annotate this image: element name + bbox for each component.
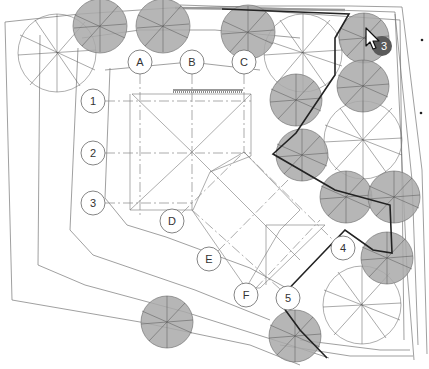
grid-bubble-1: 1 [81, 89, 105, 113]
svg-text:B: B [188, 56, 195, 68]
svg-text:C: C [240, 56, 248, 68]
svg-text:D: D [168, 215, 176, 227]
grid-bubble-3: 3 [81, 191, 105, 215]
svg-text:A: A [136, 56, 144, 68]
tree-filled-6 [337, 60, 389, 112]
tree-filled-11 [269, 310, 321, 362]
grid-bubble-4: 4 [331, 236, 355, 260]
grid-bubble-5: 5 [276, 286, 300, 310]
svg-text:3: 3 [381, 40, 387, 52]
tree-filled-2 [136, 0, 190, 53]
tree-filled-12 [141, 296, 193, 348]
svg-text:5: 5 [285, 292, 291, 304]
tree-filled-9 [368, 171, 420, 223]
svg-text:1: 1 [90, 95, 96, 107]
tree-filled-7 [276, 129, 328, 181]
svg-text:E: E [205, 253, 212, 265]
grid-bubble-e: E [197, 247, 221, 271]
tree-open-3 [324, 101, 402, 179]
grid-bubble-f: F [234, 283, 258, 307]
margin-marks [420, 39, 424, 115]
svg-text:2: 2 [90, 147, 96, 159]
tree-filled-8 [320, 171, 372, 223]
tree-filled-1 [73, 0, 127, 53]
grid-bubble-a: A [128, 50, 152, 74]
grid-bubble-b: B [180, 50, 204, 74]
tree-filled-10 [361, 232, 413, 284]
grid-bubble-2: 2 [81, 141, 105, 165]
svg-text:4: 4 [340, 242, 346, 254]
grid-bubble-d: D [160, 209, 184, 233]
site-plan-drawing: A B C D E F 1 2 3 4 5 3 [0, 0, 429, 369]
grid-bubble-c: C [232, 50, 256, 74]
svg-text:F: F [243, 289, 250, 301]
tree-filled-5 [270, 74, 322, 126]
svg-text:3: 3 [90, 197, 96, 209]
